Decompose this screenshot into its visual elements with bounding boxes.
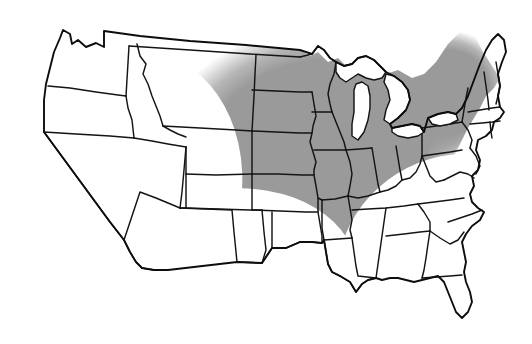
us-map-figure bbox=[0, 0, 532, 344]
us-map-svg bbox=[0, 0, 532, 344]
